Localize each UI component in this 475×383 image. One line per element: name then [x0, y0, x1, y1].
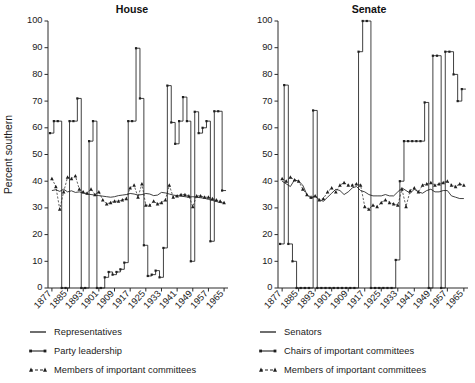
y-tick-label: 50: [262, 149, 272, 159]
chart-panel-house: HousePercent southern0102030405060708090…: [0, 0, 238, 320]
step-marker: [92, 120, 94, 122]
step-marker: [452, 73, 454, 75]
x-tick-label: 1941: [394, 289, 415, 311]
step-marker: [186, 120, 188, 122]
triangle-marker: [191, 205, 195, 209]
step-marker: [370, 287, 372, 289]
triangle-marker: [218, 199, 222, 203]
series-1: [279, 20, 466, 289]
triangle-marker: [322, 197, 326, 201]
y-tick-label: 20: [262, 229, 272, 239]
triangle-marker: [222, 201, 226, 205]
legend-item[interactable]: Members of important committees: [28, 360, 243, 379]
step-party-leadership: [50, 48, 226, 288]
triangle-marker: [446, 179, 450, 183]
step-marker: [151, 274, 153, 276]
step-marker: [80, 287, 82, 289]
step-marker: [304, 287, 306, 289]
step-chairs-of-important-committees: [280, 21, 466, 288]
legend-solid-line-icon: [28, 326, 54, 338]
step-marker: [201, 127, 203, 129]
legend-item-label: Members of important committees: [284, 365, 426, 375]
step-marker: [76, 97, 78, 99]
triangle-marker: [132, 183, 136, 187]
step-marker: [399, 180, 401, 182]
step-marker: [205, 120, 207, 122]
legend-item[interactable]: Members of important committees: [258, 360, 473, 379]
legend-item[interactable]: Chairs of important committees: [258, 341, 473, 360]
series-1: [49, 47, 226, 289]
step-marker: [217, 110, 219, 112]
series-0: [282, 180, 464, 201]
triangle-marker: [124, 197, 128, 201]
triangle-marker: [305, 193, 309, 197]
y-tick-label: 100: [27, 15, 43, 25]
step-marker: [444, 51, 446, 53]
step-marker: [337, 287, 339, 289]
triangle-marker: [330, 186, 334, 190]
step-marker: [316, 287, 318, 289]
triangle-marker: [450, 183, 454, 187]
triangle-marker: [379, 201, 383, 205]
y-tick-label: 80: [32, 69, 42, 79]
x-tick-label: 1877: [262, 289, 283, 311]
axis-lines: [278, 21, 468, 288]
legend-item-label: Senators: [284, 327, 322, 337]
step-marker: [357, 51, 359, 53]
triangle-marker: [168, 183, 172, 187]
step-marker: [178, 120, 180, 122]
triangle-marker: [89, 187, 93, 191]
step-marker: [170, 121, 172, 123]
triangle-marker: [81, 190, 85, 194]
step-marker: [428, 287, 430, 289]
y-tick-label: 60: [32, 122, 42, 132]
step-marker: [158, 276, 160, 278]
step-marker: [182, 96, 184, 98]
y-tick-label: 40: [262, 176, 272, 186]
x-tick-label: 1893: [295, 289, 316, 311]
triangle-marker: [54, 185, 58, 189]
step-marker: [291, 260, 293, 262]
step-marker: [209, 240, 211, 242]
step-marker: [366, 20, 368, 22]
step-marker: [300, 287, 302, 289]
step-marker: [341, 287, 343, 289]
step-marker: [190, 260, 192, 262]
y-tick-label: 90: [262, 42, 272, 52]
legend-item[interactable]: Senators: [258, 322, 473, 341]
dashed-members-of-important-committees: [52, 176, 224, 209]
triangle-marker: [179, 193, 183, 197]
legend-item-label: Chairs of important committees: [284, 346, 414, 356]
legend-item[interactable]: Representatives: [28, 322, 243, 341]
step-marker: [108, 271, 110, 273]
step-marker: [104, 276, 106, 278]
step-marker: [436, 55, 438, 57]
step-marker: [419, 140, 421, 142]
triangle-marker: [363, 205, 367, 209]
triangle-marker: [74, 174, 78, 178]
y-tick-label: 30: [32, 202, 42, 212]
x-tick-label: 1965: [444, 289, 465, 311]
step-marker: [448, 51, 450, 53]
triangle-marker: [58, 207, 62, 211]
triangle-marker: [342, 181, 346, 185]
x-tick-label: 1909: [328, 289, 349, 311]
y-tick-label: 70: [262, 96, 272, 106]
step-marker: [407, 140, 409, 142]
y-tick-label: 0: [37, 282, 42, 292]
step-marker: [395, 259, 397, 261]
legend-item[interactable]: Party leadership: [28, 341, 243, 360]
step-marker: [329, 287, 331, 289]
step-marker: [279, 243, 281, 245]
triangle-marker: [371, 203, 375, 207]
legend-dashed-triangle-icon: [28, 364, 54, 376]
x-tick-label: 1925: [361, 289, 382, 311]
step-marker: [174, 143, 176, 145]
legend-item-label: Members of important committees: [54, 365, 196, 375]
triangle-marker: [128, 186, 132, 190]
triangle-marker: [164, 198, 168, 202]
step-marker: [147, 275, 149, 277]
step-marker: [221, 189, 223, 191]
step-marker: [143, 244, 145, 246]
triangle-marker: [211, 197, 215, 201]
